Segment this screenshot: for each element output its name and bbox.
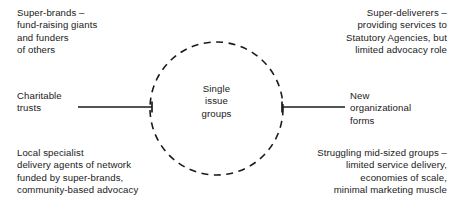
quadrant-caption-top-right: Super-deliverers – providing services to… [247,7,447,56]
axis-label-left: Charitable trusts [17,90,87,115]
quadrant-caption-top-left: Super-brands – fund-raising giants and f… [17,7,167,56]
diagram-canvas: Super-brands – fund-raising giants and f… [0,0,457,217]
quadrant-caption-bottom-right: Struggling mid-sized groups – limited se… [247,147,447,196]
quadrant-caption-bottom-left: Local specialist delivery agents of netw… [17,147,227,196]
axis-label-right: New organizational forms [350,90,450,127]
hub-label: Single issue groups [150,83,283,120]
